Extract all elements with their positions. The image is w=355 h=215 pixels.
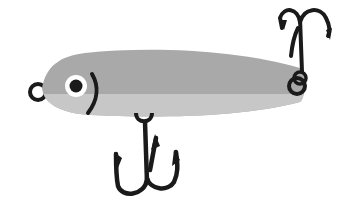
pupil (70, 80, 83, 93)
tail-treble-hook-icon (280, 10, 329, 72)
lure-illustration (0, 0, 355, 215)
belly-treble-hook-icon (116, 122, 177, 194)
fishing-lure-icon (0, 0, 355, 215)
